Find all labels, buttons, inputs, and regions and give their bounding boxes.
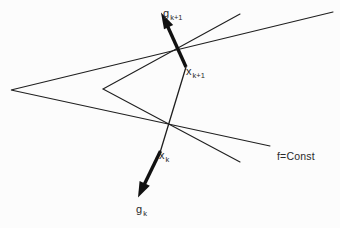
point-x-k-plus-1-label: xk+1 (186, 62, 204, 78)
gradient-k-plus-1-subscript: k+1 (170, 13, 182, 22)
gradient-k-label: gk (136, 200, 146, 216)
diagram-canvas: gk+1 xk+1 xk gk f=Const (0, 0, 340, 228)
gradient-k-symbol: g (136, 203, 142, 215)
gradient-k-plus-1-label: gk+1 (163, 4, 181, 20)
point-x-k-label: xk (159, 146, 168, 162)
point-x-k-symbol: x (159, 149, 165, 161)
point-x-k-subscript: k (166, 155, 170, 164)
point-x-k-plus-1-symbol: x (186, 65, 192, 77)
gradient-k-plus-1-symbol: g (163, 7, 169, 19)
point-x-k-plus-1-subscript: k+1 (193, 71, 205, 80)
f-const-label: f=Const (277, 151, 315, 162)
gradient-k-subscript: k (143, 209, 147, 218)
step-segment (161, 67, 187, 151)
level-curve-vector-diagram (0, 0, 340, 228)
gradient-vector-k-arrow-icon (138, 151, 161, 198)
